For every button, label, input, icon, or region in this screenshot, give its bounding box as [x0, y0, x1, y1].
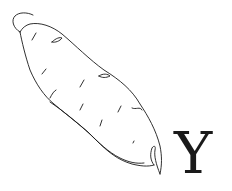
- stem-hook: [13, 13, 33, 32]
- alphabet-card: Y: [0, 0, 232, 191]
- alphabet-letter: Y: [174, 124, 212, 182]
